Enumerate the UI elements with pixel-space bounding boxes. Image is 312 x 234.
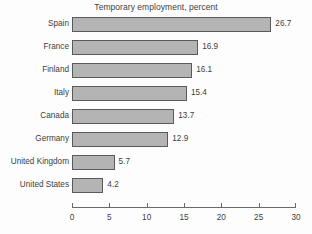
bar-value-united-states: 4.2	[107, 180, 118, 189]
bar-row: Spain 26.7	[0, 14, 312, 37]
category-label-finland: Finland	[42, 65, 69, 74]
bar-chart: Temporary employment, percent Spain 26.7…	[0, 0, 312, 234]
bar-canada[interactable]	[72, 109, 174, 124]
bar-rows: Spain 26.7 France 16.9 Finland 16.1 Ital…	[0, 14, 312, 198]
x-axis-tick-label: 5	[107, 213, 112, 222]
bar-row: France 16.9	[0, 37, 312, 60]
x-axis-tick	[109, 203, 110, 208]
bar-france[interactable]	[72, 40, 198, 55]
category-label-united-kingdom: United Kingdom	[11, 157, 69, 166]
bar-value-france: 16.9	[202, 42, 218, 51]
x-axis-tick	[221, 203, 222, 208]
x-axis-tick	[295, 203, 296, 208]
x-axis-tick-label: 25	[254, 213, 263, 222]
bar-track-finland	[72, 63, 192, 78]
x-axis-tick-label: 0	[70, 213, 75, 222]
bar-row: United States 4.2	[0, 175, 312, 198]
x-axis-tick	[184, 203, 185, 208]
bar-italy[interactable]	[72, 86, 187, 101]
bar-finland[interactable]	[72, 63, 192, 78]
bar-row: Finland 16.1	[0, 60, 312, 83]
bar-value-finland: 16.1	[196, 65, 212, 74]
bar-spain[interactable]	[72, 17, 271, 32]
category-label-italy: Italy	[54, 88, 69, 97]
x-axis: 051015202530	[72, 207, 296, 208]
category-label-germany: Germany	[35, 134, 69, 143]
bar-value-canada: 13.7	[178, 111, 194, 120]
bar-value-germany: 12.9	[172, 134, 188, 143]
bar-row: Canada 13.7	[0, 106, 312, 129]
x-axis-tick-label: 30	[291, 213, 300, 222]
category-label-canada: Canada	[40, 111, 69, 120]
x-axis-tick	[259, 203, 260, 208]
bar-united-kingdom[interactable]	[72, 155, 115, 170]
bar-track-spain	[72, 17, 271, 32]
chart-title: Temporary employment, percent	[0, 2, 312, 12]
category-label-france: France	[44, 42, 69, 51]
bar-track-united-states	[72, 178, 103, 193]
bar-track-united-kingdom	[72, 155, 115, 170]
x-axis-tick-label: 15	[179, 213, 188, 222]
bar-track-italy	[72, 86, 187, 101]
x-axis-tick	[147, 203, 148, 208]
bar-united-states[interactable]	[72, 178, 103, 193]
bar-value-italy: 15.4	[191, 88, 207, 97]
bar-track-france	[72, 40, 198, 55]
bar-track-canada	[72, 109, 174, 124]
bar-row: United Kingdom 5.7	[0, 152, 312, 175]
category-label-united-states: United States	[20, 180, 69, 189]
bar-row: Italy 15.4	[0, 83, 312, 106]
x-axis-tick-label: 20	[217, 213, 226, 222]
bar-track-germany	[72, 132, 168, 147]
x-axis-tick	[72, 203, 73, 208]
bar-row: Germany 12.9	[0, 129, 312, 152]
bar-value-spain: 26.7	[275, 19, 291, 28]
category-label-spain: Spain	[48, 19, 69, 28]
x-axis-tick-label: 10	[142, 213, 151, 222]
bar-germany[interactable]	[72, 132, 168, 147]
bar-value-united-kingdom: 5.7	[119, 157, 130, 166]
